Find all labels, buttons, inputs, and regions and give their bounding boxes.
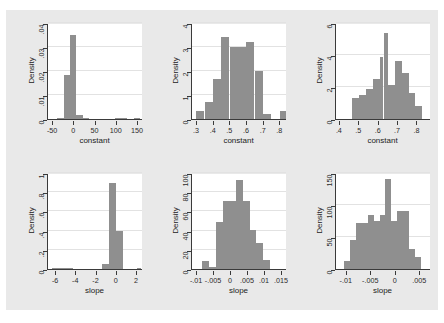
histogram-bar xyxy=(246,42,254,119)
x-axis-tick xyxy=(116,121,117,125)
histogram-bar xyxy=(216,222,223,269)
y-axis-tick-label: 2 xyxy=(325,89,334,109)
x-axis-tick xyxy=(419,271,420,275)
x-axis-tick xyxy=(346,271,347,275)
histogram-bar xyxy=(230,47,238,119)
histogram-bar xyxy=(415,106,422,119)
histogram-bar xyxy=(243,201,250,269)
y-axis-tick-label: 60 xyxy=(181,213,190,233)
bar-series xyxy=(192,24,286,119)
y-axis-tick-label: .03 xyxy=(37,49,46,69)
y-axis-tick-label: 1 xyxy=(37,175,46,195)
x-axis-tick xyxy=(75,271,76,275)
y-axis-tick-label: 50 xyxy=(325,239,334,259)
x-axis-tick-label: .005 xyxy=(405,276,433,285)
histogram-panel: 0.01.02.03.04-50050100150Densityconstant xyxy=(6,10,150,160)
x-axis-tick xyxy=(213,121,214,125)
x-axis-tick xyxy=(247,271,248,275)
histogram-bar xyxy=(102,264,109,269)
y-axis-tick-label: .8 xyxy=(37,194,46,214)
histogram-bar xyxy=(229,201,236,269)
plot-area xyxy=(191,174,286,270)
y-axis-tick-label: 3 xyxy=(181,49,190,69)
x-axis-tick-label: 150 xyxy=(123,126,151,135)
x-axis-tick-label: .015 xyxy=(267,276,295,285)
histogram-bar xyxy=(238,47,246,119)
histogram-bar xyxy=(255,71,263,119)
bar-series xyxy=(336,174,430,269)
y-axis-title: Density xyxy=(315,193,324,249)
x-axis-tick xyxy=(281,271,282,275)
x-axis-tick xyxy=(96,271,97,275)
x-axis-tick xyxy=(416,121,417,125)
x-axis-tick xyxy=(378,121,379,125)
x-axis-tick xyxy=(395,271,396,275)
x-axis-title: slope xyxy=(47,286,142,295)
x-axis-tick-label: .8 xyxy=(265,126,293,135)
histogram-bar xyxy=(250,230,257,269)
x-axis-title: constant xyxy=(191,136,286,145)
histogram-bar xyxy=(352,98,359,119)
histogram-bar xyxy=(202,261,209,269)
histogram-panel: 050100150-.01-.0050.005Densityslope xyxy=(294,160,438,310)
histogram-bar xyxy=(236,180,243,269)
x-axis-title: slope xyxy=(191,286,286,295)
y-axis-title: Density xyxy=(315,43,324,99)
y-axis-tick-label: 40 xyxy=(181,232,190,252)
y-axis-tick-label: .02 xyxy=(37,73,46,93)
plot-area xyxy=(335,24,430,120)
histogram-bar xyxy=(116,231,123,269)
bar-series xyxy=(336,24,430,119)
y-axis-tick-label: .2 xyxy=(37,251,46,271)
histogram-bar xyxy=(70,35,76,119)
y-axis-tick-label: 100 xyxy=(181,175,190,195)
y-axis-tick-label: .4 xyxy=(37,232,46,252)
x-axis-tick xyxy=(136,271,137,275)
x-axis-tick xyxy=(52,121,53,125)
y-axis-tick-label: .01 xyxy=(37,97,46,117)
histogram-bar xyxy=(109,183,116,269)
gridline xyxy=(192,172,286,173)
histogram-bar xyxy=(280,111,287,119)
histogram-bar xyxy=(373,79,380,119)
histogram-bar xyxy=(59,268,66,269)
histogram-bar xyxy=(134,118,140,119)
histogram-bar xyxy=(121,118,127,119)
x-axis-tick xyxy=(397,121,398,125)
histogram-bar xyxy=(205,102,213,119)
bar-series xyxy=(192,174,286,269)
histogram-bar xyxy=(415,257,421,269)
histogram-bar xyxy=(221,37,229,119)
y-axis-title: Density xyxy=(27,43,36,99)
y-axis-tick-label: 20 xyxy=(181,251,190,271)
histogram-panel: 0.2.4.6.81-6-4-202Densityslope xyxy=(6,160,150,310)
x-axis-tick xyxy=(339,121,340,125)
y-axis-tick-label: 6 xyxy=(325,25,334,45)
histogram-bar xyxy=(83,118,89,119)
x-axis-tick xyxy=(196,271,197,275)
histogram-bar xyxy=(66,268,73,269)
gridline xyxy=(48,22,142,23)
histogram-bar xyxy=(263,260,270,269)
x-axis-tick xyxy=(196,121,197,125)
histogram-panel: 0246.4.5.6.7.8Densityconstant xyxy=(294,10,438,160)
y-axis-tick-label: 4 xyxy=(181,25,190,45)
x-axis-tick-label: 2 xyxy=(122,276,150,285)
y-axis-tick-label: 80 xyxy=(181,194,190,214)
y-axis-tick-label: 100 xyxy=(325,207,334,227)
histogram-bar xyxy=(256,243,263,269)
plot-area xyxy=(47,174,142,270)
bar-series xyxy=(48,24,142,119)
histogram-bar xyxy=(263,114,271,119)
gridline xyxy=(48,172,142,173)
y-axis-tick-label: .04 xyxy=(37,25,46,45)
x-axis-tick xyxy=(279,121,280,125)
x-axis-tick xyxy=(264,271,265,275)
y-axis-tick-label: 1 xyxy=(181,97,190,117)
histogram-bar xyxy=(196,111,204,119)
x-axis-tick xyxy=(95,121,96,125)
histogram-bar xyxy=(402,73,409,119)
histogram-bar xyxy=(52,268,59,269)
x-axis-tick xyxy=(229,121,230,125)
gridline xyxy=(336,172,430,173)
